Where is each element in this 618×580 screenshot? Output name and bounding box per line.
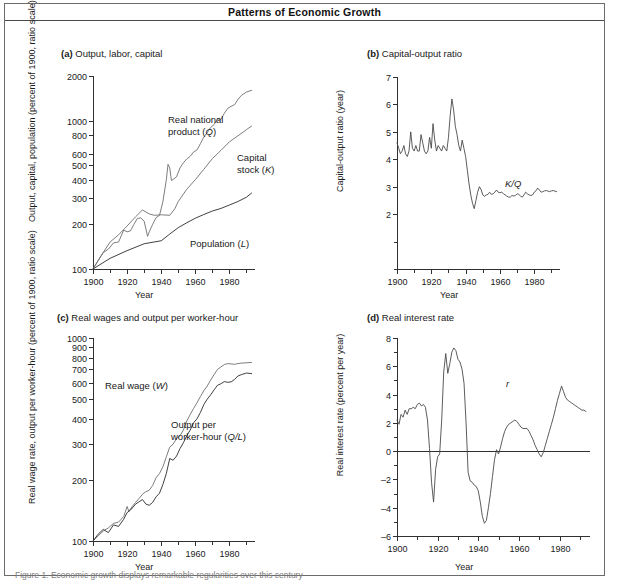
panel-b-series-label: K/Q	[505, 178, 521, 190]
panel-d-xtick-label: 1980	[550, 544, 570, 554]
panel-c-series-label: Real wage (W)	[105, 380, 168, 392]
panel-a-xtick-label: 1920	[117, 277, 137, 287]
panel-b-xtick-label: 1920	[421, 277, 441, 287]
panel-c-plot: 1002003004005006007008009001000190019201…	[5, 292, 305, 572]
figure-frame: Patterns of Economic Growth (a) Output, …	[4, 3, 605, 576]
panel-c-ytick-label: 100	[72, 537, 87, 547]
panel-d-ytick-label: 2	[386, 419, 391, 429]
panel-c-xtick-label: 1960	[185, 549, 205, 559]
panel-d-ytick-label: 6	[386, 362, 391, 372]
panel-a-ytick-label: 400	[72, 176, 87, 186]
panel-b-ytick-label: 3	[386, 183, 391, 193]
panel-b-series-line	[397, 99, 557, 209]
panel-a-ytick-label: 300	[72, 194, 87, 204]
panel-a-xtick-label: 1980	[219, 277, 239, 287]
panel-c-ytick-label: 1000	[67, 334, 87, 344]
panel-a-xtick-label: 1960	[185, 277, 205, 287]
panel-d-xtick-label: 1920	[428, 544, 448, 554]
panel-a-xtick-label: 1900	[83, 277, 103, 287]
panel-a-ytick-label: 200	[72, 220, 87, 230]
panel-a-xtick-label: 1940	[151, 277, 171, 287]
figure-title-bar: Patterns of Economic Growth	[5, 4, 604, 21]
panel-d-ytick-label: –4	[381, 504, 391, 514]
panel-c-ytick-label: 200	[72, 476, 87, 486]
panel-c-series-label: Output perworker-hour (Q/L)	[171, 419, 246, 442]
panel-c: (c) Real wages and output per worker-hou…	[5, 292, 305, 572]
panel-a-series-label: Capitalstock (K)	[237, 152, 275, 175]
panel-c-ytick-label: 900	[72, 343, 87, 353]
panel-a-ytick-label: 500	[72, 161, 87, 171]
panel-d-ytick-label: 0	[386, 447, 391, 457]
panel-c-ytick-label: 600	[72, 379, 87, 389]
panel-c-ytick-label: 700	[72, 365, 87, 375]
panel-c-y-axis-label: Real wage rate, output per worker-hour (…	[27, 289, 37, 504]
panel-a-series-label: Population (L)	[190, 238, 249, 250]
panel-b-ytick-label: 5	[386, 128, 391, 138]
panel-a: (a) Output, labor, capital 1002003004005…	[5, 26, 305, 296]
panel-a-ytick-label: 2000	[67, 72, 87, 82]
panel-d-ytick-label: –6	[381, 532, 391, 542]
panel-c-ytick-label: 800	[72, 354, 87, 364]
panel-b-plot: 23456719001920194019601980	[305, 26, 605, 296]
panel-a-series-line	[93, 193, 252, 269]
panel-b-y-axis-label: Capital-output ratio (year)	[335, 51, 345, 231]
panel-c-xtick-label: 1940	[151, 549, 171, 559]
figure-title: Patterns of Economic Growth	[228, 6, 381, 18]
panel-b: (b) Capital-output ratio 234567190019201…	[305, 26, 605, 296]
panel-d-series-line	[397, 348, 586, 523]
panel-d: (d) Real interest rate –6–4–202468190019…	[305, 292, 605, 572]
panel-c-xtick-label: 1900	[83, 549, 103, 559]
panel-c-ytick-label: 300	[72, 440, 87, 450]
panel-b-xtick-label: 1900	[387, 277, 407, 287]
panel-b-xtick-label: 1980	[524, 277, 544, 287]
panel-b-ytick-label: 7	[386, 73, 391, 83]
panel-d-ytick-label: 8	[386, 334, 391, 344]
panel-c-xtick-label: 1920	[117, 549, 137, 559]
panel-c-xtick-label: 1980	[219, 549, 239, 559]
panel-a-ytick-label: 100	[72, 265, 87, 275]
panel-d-y-axis-label: Real interest rate (percent per year)	[335, 305, 345, 505]
panel-d-xtick-label: 1900	[387, 544, 407, 554]
panel-c-series-line	[93, 373, 252, 541]
panel-d-xtick-label: 1940	[468, 544, 488, 554]
panel-d-plot: –6–4–20246819001920194019601980	[305, 292, 605, 572]
panel-d-series-label: r	[506, 378, 509, 390]
panel-b-ytick-label: 4	[386, 155, 391, 165]
panel-b-xtick-label: 1940	[456, 277, 476, 287]
panel-a-y-axis-label: Output, capital, population (percent of …	[27, 42, 37, 222]
panel-b-ytick-label: 6	[386, 100, 391, 110]
figure-caption: Figure 1. Economic growth displays remar…	[15, 570, 595, 580]
panel-d-ytick-label: 4	[386, 391, 391, 401]
panel-c-ytick-label: 400	[72, 415, 87, 425]
panel-a-series-label: Real nationalproduct (Q)	[168, 114, 223, 137]
panel-b-xtick-label: 1960	[490, 277, 510, 287]
panel-d-xtick-label: 1960	[509, 544, 529, 554]
panel-a-ytick-label: 600	[72, 150, 87, 160]
panel-c-ytick-label: 500	[72, 395, 87, 405]
panel-d-ytick-label: –2	[381, 475, 391, 485]
panel-a-ytick-label: 800	[72, 131, 87, 141]
panel-a-ytick-label: 1000	[67, 117, 87, 127]
panel-b-ytick-label: 2	[386, 210, 391, 220]
